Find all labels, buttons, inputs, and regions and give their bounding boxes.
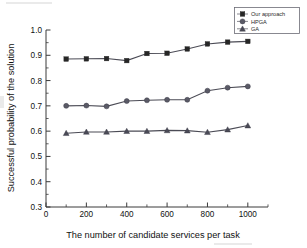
data-point-marker: [144, 98, 149, 103]
line-chart: 0.30.40.50.60.70.80.91.0 020040060080010…: [0, 0, 307, 248]
data-point-marker: [124, 99, 129, 104]
data-point-marker: [84, 57, 89, 62]
y-tick-label: 0.4: [31, 178, 43, 187]
data-point-marker: [185, 97, 190, 102]
y-tick-label: 1.0: [31, 26, 43, 35]
data-point-marker: [185, 47, 190, 52]
legend-label: HPGA: [251, 19, 267, 25]
data-point-marker: [205, 88, 210, 93]
y-tick-label: 0.7: [31, 102, 43, 111]
data-point-marker: [245, 84, 250, 89]
data-point-marker: [165, 97, 170, 102]
data-point-marker: [124, 58, 129, 63]
y-tick-label: 0.3: [31, 203, 43, 212]
y-tick-label: 0.6: [31, 127, 43, 136]
y-axis-title: Successful probability of the solution: [6, 44, 16, 193]
data-point-marker: [84, 103, 89, 108]
data-point-marker: [104, 104, 109, 109]
data-point-marker: [145, 51, 150, 56]
data-point-marker: [240, 19, 245, 24]
x-tick-label: 400: [120, 210, 134, 219]
y-tick-label: 0.8: [31, 77, 43, 86]
chart-figure: 0.30.40.50.60.70.80.91.0 020040060080010…: [0, 0, 307, 248]
legend-label: Our approach: [251, 11, 285, 17]
y-tick-label: 0.9: [31, 51, 43, 60]
data-point-marker: [246, 39, 251, 44]
x-tick-label: 0: [44, 210, 49, 219]
data-point-marker: [64, 57, 69, 62]
x-tick-label: 600: [160, 210, 174, 219]
y-tick-label: 0.5: [31, 152, 43, 161]
legend-item-hpga[interactable]: HPGA: [237, 19, 267, 25]
data-point-marker: [165, 51, 170, 56]
legend-label: GA: [251, 26, 259, 32]
chart-legend: Our approachHPGAGA: [235, 8, 300, 34]
x-tick-label: 1000: [239, 210, 258, 219]
data-point-marker: [104, 56, 109, 61]
data-point-marker: [225, 85, 230, 90]
legend-item-our-approach[interactable]: Our approach: [237, 11, 285, 17]
x-axis-title: The number of candidate services per tas…: [66, 230, 240, 240]
x-tick-label: 800: [201, 210, 215, 219]
x-tick-label: 200: [80, 210, 94, 219]
data-point-marker: [240, 12, 245, 17]
data-point-marker: [64, 103, 69, 108]
data-point-marker: [225, 40, 230, 45]
data-point-marker: [205, 42, 210, 47]
